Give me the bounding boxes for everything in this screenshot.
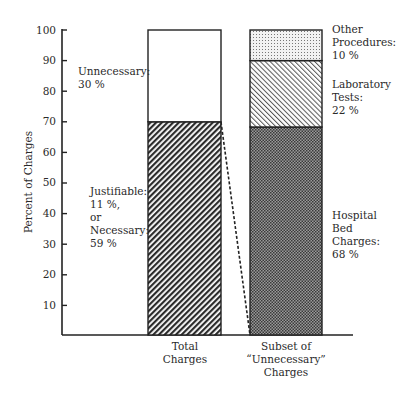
y-tick-40: 40	[43, 207, 56, 219]
svg-text:Subset of: Subset of	[261, 340, 312, 352]
svg-text:11 %,: 11 %,	[90, 198, 120, 210]
y-tick-10: 10	[43, 299, 56, 311]
y-tick-80: 80	[43, 85, 56, 97]
y-tick-90: 90	[43, 54, 56, 66]
svg-text:Justifiable:: Justifiable:	[89, 185, 147, 197]
svg-text:Other: Other	[332, 23, 364, 35]
segment-necessary	[148, 122, 221, 335]
svg-text:Hospital: Hospital	[332, 209, 377, 221]
bar-total-charges	[148, 30, 221, 335]
label-laboratory-tests: Laboratory Tests: 22 %	[332, 78, 391, 116]
y-axis-label: Percent of Charges	[22, 131, 34, 233]
svg-text:“Unnecessary”: “Unnecessary”	[246, 353, 325, 365]
y-tick-50: 50	[43, 176, 56, 188]
svg-text:30 %: 30 %	[78, 78, 105, 90]
svg-text:Unnecessary:: Unnecessary:	[78, 65, 150, 77]
y-tick-60: 60	[43, 146, 56, 158]
segment-other-procedures	[250, 30, 322, 61]
stacked-bar-chart: 100 90 80 70 60 50 40 30 20 10 Percent o…	[0, 0, 411, 393]
label-other-procedures: Other Procedures: 10 %	[332, 23, 396, 61]
svg-text:59 %: 59 %	[90, 237, 117, 249]
svg-text:or: or	[90, 211, 102, 223]
svg-text:68 %: 68 %	[332, 248, 359, 260]
svg-text:Necessary:: Necessary:	[90, 224, 149, 236]
dashed-connector	[221, 122, 250, 335]
svg-text:Bed: Bed	[332, 222, 353, 234]
svg-text:Charges: Charges	[163, 353, 207, 365]
y-axis: 100 90 80 70 60 50 40 30 20 10 Percent o…	[22, 24, 67, 336]
svg-text:10 %: 10 %	[332, 49, 359, 61]
y-tick-20: 20	[43, 268, 56, 280]
bar-subset-unnecessary	[250, 30, 322, 335]
svg-text:Charges: Charges	[264, 366, 308, 378]
y-tick-100: 100	[36, 24, 56, 36]
segment-hospital-bed	[250, 127, 322, 335]
x-label-subset: Subset of “Unnecessary” Charges	[246, 340, 325, 378]
svg-text:Procedures:: Procedures:	[332, 36, 396, 48]
svg-text:22 %: 22 %	[332, 104, 359, 116]
label-unnecessary: Unnecessary: 30 %	[78, 65, 150, 90]
label-justifiable-necessary: Justifiable: 11 %, or Necessary: 59 %	[89, 185, 149, 249]
svg-text:Charges:: Charges:	[332, 235, 380, 247]
y-tick-70: 70	[43, 115, 56, 127]
y-tick-30: 30	[43, 238, 56, 250]
segment-laboratory	[250, 61, 322, 127]
svg-text:Laboratory: Laboratory	[332, 78, 391, 90]
x-label-total-charges: Total Charges	[163, 340, 207, 365]
svg-text:Total: Total	[172, 340, 199, 352]
segment-unnecessary	[148, 30, 221, 122]
label-hospital-bed: Hospital Bed Charges: 68 %	[332, 209, 380, 260]
svg-text:Tests:: Tests:	[332, 91, 363, 103]
